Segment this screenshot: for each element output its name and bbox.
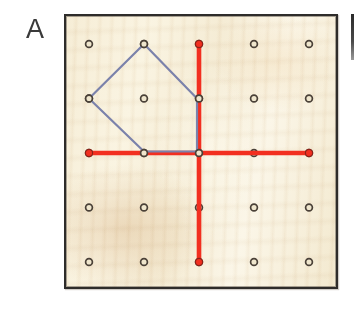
- red-line-endpoint: [195, 40, 202, 47]
- red-line-endpoint: [305, 149, 312, 156]
- red-line-endpoint: [195, 258, 202, 265]
- panel-label-a: A: [26, 16, 45, 43]
- polygon-vertex-pegs: [86, 41, 203, 157]
- blue-polygon-band: [89, 44, 197, 152]
- polygon-vertex-peg: [86, 95, 93, 102]
- peg: [306, 41, 313, 48]
- peg: [86, 204, 93, 211]
- red-line-endpoint: [85, 149, 92, 156]
- polygon-vertex-peg: [196, 150, 203, 157]
- polygon-vertex-peg: [141, 41, 148, 48]
- peg: [86, 41, 93, 48]
- geoboard: [64, 14, 338, 289]
- peg: [141, 204, 148, 211]
- peg: [251, 204, 258, 211]
- adjacent-panel-edge: [351, 14, 354, 60]
- peg: [306, 95, 313, 102]
- peg: [86, 259, 93, 266]
- polygon-vertex-peg: [141, 150, 148, 157]
- peg: [251, 259, 258, 266]
- peg: [306, 204, 313, 211]
- figure-panel-a: A: [0, 0, 359, 311]
- polygon-vertex-peg: [196, 95, 203, 102]
- peg: [251, 41, 258, 48]
- peg: [141, 259, 148, 266]
- peg: [251, 95, 258, 102]
- peg: [141, 95, 148, 102]
- peg: [306, 259, 313, 266]
- geoboard-drawing-layer: [64, 14, 338, 289]
